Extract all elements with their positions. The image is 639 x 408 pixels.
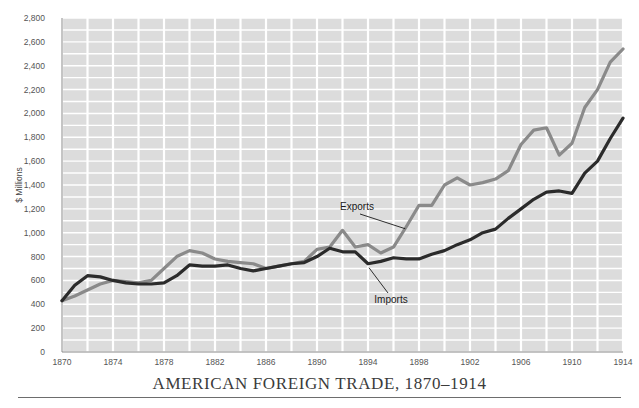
y-tick-label: 2,400 <box>24 61 46 71</box>
y-tick-label: 1,800 <box>24 132 46 142</box>
foreign-trade-line-chart: 02004006008001,0001,2001,4001,6001,8002,… <box>0 0 639 408</box>
x-tick-label: 1914 <box>614 357 633 367</box>
x-tick-label: 1894 <box>359 357 378 367</box>
x-tick-label: 1890 <box>308 357 327 367</box>
chart-title: AMERICAN FOREIGN TRADE, 1870–1914 <box>153 374 487 393</box>
y-tick-label: 2,600 <box>24 37 46 47</box>
y-axis-label: $ Millions <box>14 167 24 202</box>
exports-annotation-label: Exports <box>340 201 374 212</box>
y-tick-label: 2,800 <box>24 13 46 23</box>
x-tick-label: 1910 <box>563 357 582 367</box>
y-tick-label: 400 <box>31 299 45 309</box>
x-tick-label: 1870 <box>53 357 72 367</box>
chart-figure: 02004006008001,0001,2001,4001,6001,8002,… <box>0 0 639 408</box>
x-tick-label: 1878 <box>155 357 174 367</box>
x-tick-label: 1898 <box>410 357 429 367</box>
x-tick-label: 1886 <box>257 357 276 367</box>
x-tick-label: 1874 <box>104 357 123 367</box>
y-tick-label: 600 <box>31 275 45 285</box>
y-tick-label: 0 <box>40 347 45 357</box>
x-tick-label: 1906 <box>512 357 531 367</box>
y-tick-label: 1,400 <box>24 180 46 190</box>
y-tick-label: 1,200 <box>24 204 46 214</box>
y-tick-label: 2,200 <box>24 85 46 95</box>
x-tick-label: 1902 <box>461 357 480 367</box>
y-tick-label: 1,600 <box>24 156 46 166</box>
y-tick-label: 200 <box>31 323 45 333</box>
y-tick-label: 1,000 <box>24 228 46 238</box>
y-tick-label: 800 <box>31 252 45 262</box>
x-tick-label: 1882 <box>206 357 225 367</box>
imports-annotation-label: Imports <box>374 294 407 305</box>
y-tick-label: 2,000 <box>24 108 46 118</box>
